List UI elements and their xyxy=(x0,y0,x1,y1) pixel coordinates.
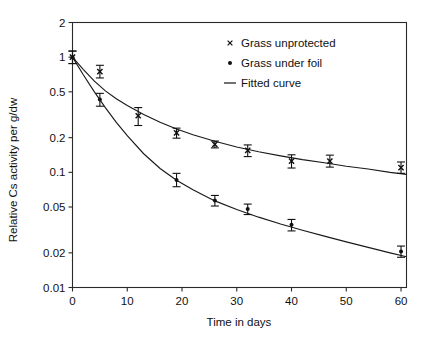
y-tick-label: 2 xyxy=(59,17,65,29)
x-tick-label: 10 xyxy=(121,295,134,307)
y-tick-label: 0.02 xyxy=(43,247,65,259)
legend-item: Grass under foil xyxy=(228,57,322,69)
figure: 0.010.020.050.10.20.512 0102030405060 Gr… xyxy=(0,0,435,342)
y-tick-label: 0.2 xyxy=(50,132,66,144)
y-tick-label: 1 xyxy=(59,51,65,63)
x-tick-label: 50 xyxy=(340,295,353,307)
y-tick-label: 0.01 xyxy=(43,282,65,294)
x-tick-label: 0 xyxy=(69,295,75,307)
x-tick-label: 20 xyxy=(176,295,189,307)
legend-label: Grass unprotected xyxy=(241,37,336,49)
legend-item: Grass unprotected xyxy=(228,37,336,49)
y-tick-label: 0.5 xyxy=(50,86,66,98)
x-tick-label: 40 xyxy=(285,295,298,307)
x-axis-title: Time in days xyxy=(207,316,272,328)
chart-canvas: 0.010.020.050.10.20.512 0102030405060 Gr… xyxy=(0,0,435,342)
y-tick-label: 0.1 xyxy=(50,166,66,178)
legend-label: Fitted curve xyxy=(241,77,301,89)
legend-label: Grass under foil xyxy=(241,57,322,69)
x-tick-label: 60 xyxy=(395,295,408,307)
x-tick-label: 30 xyxy=(230,295,243,307)
y-axis-title: Relative Cs activity per g/dw xyxy=(7,97,19,242)
y-tick-label: 0.05 xyxy=(43,201,65,213)
